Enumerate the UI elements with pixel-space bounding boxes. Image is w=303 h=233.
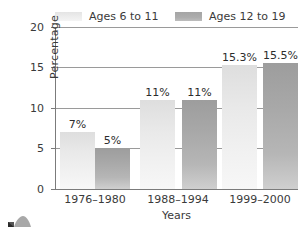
chart-legend: Ages 6 to 11 Ages 12 to 19 xyxy=(45,9,297,24)
x-tick-label-1976-1980: 1976–1980 xyxy=(64,194,126,205)
y-tick-label-10: 10 xyxy=(30,103,44,114)
y-tick-label-20: 20 xyxy=(30,22,44,33)
legend-swatch-dark-icon xyxy=(175,12,202,21)
bar-chart-figure: Ages 6 to 11 Ages 12 to 19 20 15 10 5 0 xyxy=(0,0,303,233)
x-tick-label-1988-1994: 1988–1994 xyxy=(147,194,209,205)
bar-ages-6-to-11-1999-2000: 15.3% xyxy=(222,65,257,189)
y-tick-mark-10: 10 xyxy=(51,108,55,109)
bar-value-label: 15.3% xyxy=(222,52,257,63)
mouse-cursor-icon xyxy=(8,213,32,227)
plot-area: 20 15 10 5 0 Percentage 7% 5% 11% 11% xyxy=(55,27,298,190)
bar-ages-6-to-11-1976-1980: 7% xyxy=(60,132,95,189)
gridline-10 xyxy=(55,108,298,109)
bar-value-label: 15.5% xyxy=(263,50,298,61)
gridline-15 xyxy=(55,67,298,68)
bar-value-label: 7% xyxy=(69,119,86,130)
bar-value-label: 5% xyxy=(104,135,121,146)
y-tick-label-5: 5 xyxy=(37,143,44,154)
bar-ages-12-to-19-1999-2000: 15.5% xyxy=(263,63,298,189)
legend-entry-ages-6-to-11: Ages 6 to 11 xyxy=(55,9,159,24)
y-tick-mark-5: 5 xyxy=(51,148,55,149)
x-axis-line xyxy=(55,189,298,190)
legend-label-ages-6-to-11: Ages 6 to 11 xyxy=(89,11,159,22)
bar-ages-12-to-19-1988-1994: 11% xyxy=(182,100,217,189)
y-tick-label-0: 0 xyxy=(37,184,44,195)
y-tick-label-15: 15 xyxy=(30,62,44,73)
bar-value-label: 11% xyxy=(187,87,211,98)
legend-label-ages-12-to-19: Ages 12 to 19 xyxy=(209,11,286,22)
y-tick-mark-0: 0 xyxy=(51,189,55,190)
gridline-20 xyxy=(55,27,298,28)
bar-ages-6-to-11-1988-1994: 11% xyxy=(140,100,175,189)
bar-value-label: 11% xyxy=(145,87,169,98)
bar-ages-12-to-19-1976-1980: 5% xyxy=(95,148,130,189)
legend-entry-ages-12-to-19: Ages 12 to 19 xyxy=(175,9,286,24)
y-axis-title: Percentage xyxy=(48,15,61,79)
x-tick-label-1999-2000: 1999–2000 xyxy=(229,194,291,205)
x-axis-title: Years xyxy=(162,209,191,222)
